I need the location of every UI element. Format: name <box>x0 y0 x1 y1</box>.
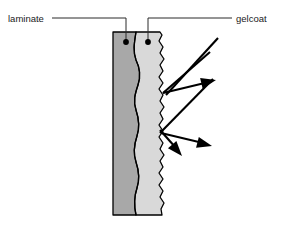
label-gelcoat: gelcoat <box>236 13 267 24</box>
gelcoat-laminate-cross-section-diagram: laminate gelcoat <box>0 0 285 232</box>
leader-dot-laminate <box>123 39 129 45</box>
leader-dot-gelcoat <box>145 39 151 45</box>
arrowhead-scattered-ray-down-left <box>168 141 186 160</box>
arrowhead-scattered-ray-down-right <box>196 137 213 151</box>
label-laminate: laminate <box>8 13 44 24</box>
light-ray-group <box>160 38 218 160</box>
arrowhead-reflected-ray-1 <box>200 75 217 89</box>
diagram-canvas: laminate gelcoat <box>0 0 285 232</box>
